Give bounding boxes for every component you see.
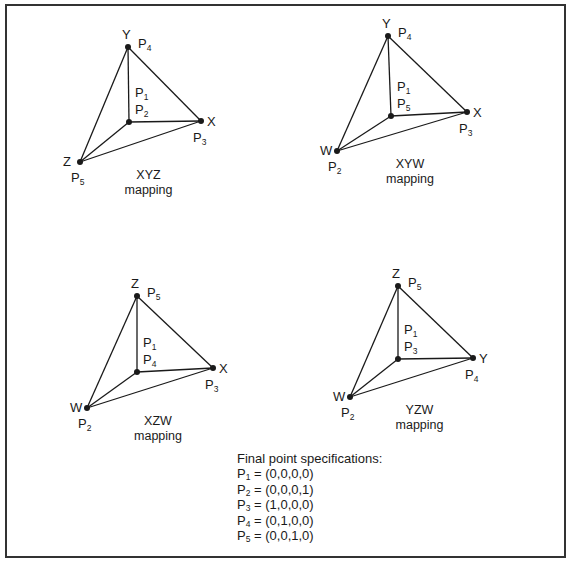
axis-label: X bbox=[473, 105, 482, 120]
vertex-dot bbox=[126, 119, 132, 125]
vertex-dot bbox=[125, 44, 131, 50]
axis-label: W bbox=[333, 389, 346, 404]
edge bbox=[80, 47, 128, 162]
axis-label: X bbox=[207, 114, 216, 129]
axis-label: Z bbox=[63, 154, 71, 169]
point-label: P2 bbox=[135, 102, 149, 119]
vertex-dot bbox=[134, 369, 140, 375]
point-label: P3 bbox=[459, 121, 473, 138]
point-label: P2 bbox=[341, 405, 355, 422]
mapping-caption: XZW bbox=[144, 414, 172, 428]
axis-label: Z bbox=[392, 266, 400, 281]
edge bbox=[350, 359, 398, 397]
mapping-caption: XYW bbox=[396, 157, 425, 171]
mapping-caption: YZW bbox=[406, 403, 434, 417]
point-label: P5 bbox=[408, 275, 422, 292]
specs-title: Final point specifications: bbox=[237, 451, 382, 466]
final-point-specifications: Final point specifications: P1 = (0,0,0,… bbox=[237, 451, 382, 543]
vertex-dot bbox=[395, 356, 401, 362]
tetrahedron-xyz: YP4P1P2XP3ZP5XYZmapping bbox=[63, 27, 216, 197]
edge bbox=[80, 121, 201, 162]
edge bbox=[337, 112, 467, 151]
point-label: P5 bbox=[397, 96, 411, 113]
point-label: P2 bbox=[78, 416, 92, 433]
tetrahedron-xzw: ZP5P1P4XP3WP2XZWmapping bbox=[70, 276, 228, 443]
point-label: P4 bbox=[138, 36, 152, 53]
edge bbox=[398, 358, 473, 359]
point-label: P3 bbox=[404, 339, 418, 356]
vertex-dot bbox=[347, 394, 353, 400]
point-label: P4 bbox=[143, 352, 157, 369]
tetrahedron-yzw: ZP5P1P3YP4WP2YZWmapping bbox=[333, 266, 488, 432]
axis-label: W bbox=[320, 143, 333, 158]
vertex-dot bbox=[84, 405, 90, 411]
edge bbox=[350, 286, 398, 397]
vertex-dot bbox=[334, 148, 340, 154]
axis-label: X bbox=[219, 361, 228, 376]
vertex-dot bbox=[77, 159, 83, 165]
point-label: P2 bbox=[328, 159, 342, 176]
axis-label: W bbox=[70, 400, 83, 415]
vertex-dot bbox=[395, 283, 401, 289]
mapping-caption: XYZ bbox=[136, 168, 161, 182]
mapping-caption: mapping bbox=[386, 172, 434, 186]
spec-row-p4: P4 = (0,1,0,0) bbox=[237, 513, 382, 528]
vertex-dot bbox=[464, 109, 470, 115]
mapping-caption: mapping bbox=[134, 429, 182, 443]
edge bbox=[87, 296, 137, 408]
tetrahedron-xyw: YP4P1P5XP3WP2XYWmapping bbox=[320, 16, 482, 186]
edge bbox=[87, 368, 213, 408]
vertex-dot bbox=[198, 118, 204, 124]
vertex-dot bbox=[388, 113, 394, 119]
edge bbox=[80, 122, 129, 162]
axis-label: Y bbox=[382, 16, 391, 31]
point-label: P4 bbox=[465, 367, 479, 384]
point-label: P4 bbox=[398, 25, 412, 42]
vertex-dot bbox=[470, 355, 476, 361]
point-label: P3 bbox=[193, 130, 207, 147]
spec-row-p5: P5 = (0,0,1,0) bbox=[237, 528, 382, 543]
mapping-caption: mapping bbox=[396, 418, 444, 432]
edge bbox=[388, 36, 391, 116]
axis-label: Y bbox=[479, 351, 488, 366]
axis-label: Y bbox=[122, 27, 131, 42]
vertex-dot bbox=[385, 33, 391, 39]
edge bbox=[128, 47, 129, 122]
vertex-dot bbox=[134, 293, 140, 299]
edge bbox=[350, 358, 473, 397]
spec-row-p2: P2 = (0,0,0,1) bbox=[237, 482, 382, 497]
point-label-p1: P1 bbox=[135, 85, 149, 102]
spec-row-p1: P1 = (0,0,0,0) bbox=[237, 466, 382, 481]
spec-row-p3: P3 = (1,0,0,0) bbox=[237, 497, 382, 512]
point-label: P3 bbox=[205, 377, 219, 394]
edge bbox=[129, 121, 201, 122]
point-label-p1: P1 bbox=[397, 79, 411, 96]
mapping-caption: mapping bbox=[125, 183, 173, 197]
point-label-p1: P1 bbox=[404, 322, 418, 339]
vertex-dot bbox=[210, 365, 216, 371]
axis-label: Z bbox=[131, 276, 139, 291]
point-label: P5 bbox=[147, 285, 161, 302]
point-label: P5 bbox=[71, 170, 85, 187]
point-label-p1: P1 bbox=[143, 335, 157, 352]
